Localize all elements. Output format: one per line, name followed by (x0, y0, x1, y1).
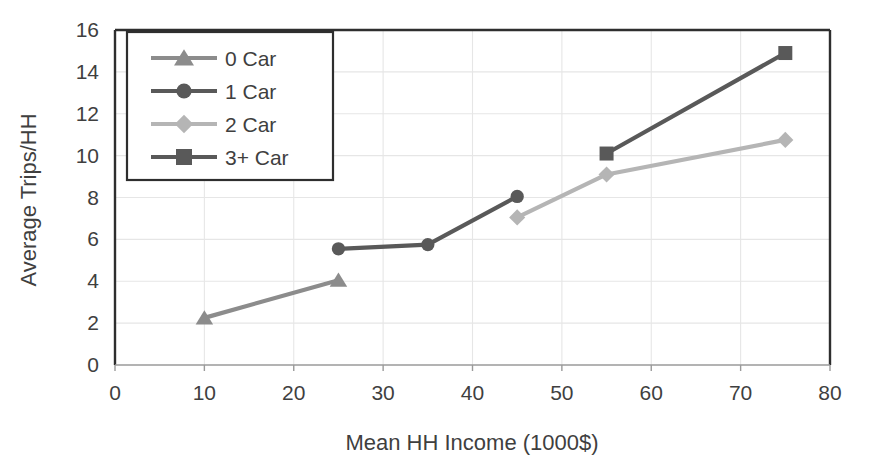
data-point-marker (330, 273, 348, 287)
series-1-car (332, 190, 524, 256)
legend-item-label: 1 Car (225, 80, 276, 103)
series-line (607, 53, 786, 154)
y-tick-label: 16 (76, 18, 99, 41)
y-tick-label: 6 (87, 227, 99, 250)
y-tick-label: 8 (87, 186, 99, 209)
data-point-marker (332, 242, 345, 255)
x-tick-label: 70 (729, 381, 752, 404)
data-point-marker (777, 132, 793, 148)
x-tick-labels: 01020304050607080 (109, 365, 842, 404)
x-tick-label: 80 (818, 381, 841, 404)
series-0-car (196, 273, 348, 325)
data-point-marker (600, 147, 614, 161)
y-tick-label: 14 (76, 60, 100, 83)
data-point-marker (421, 238, 434, 251)
chart-legend[interactable]: 0 Car1 Car2 Car3+ Car (127, 32, 333, 180)
y-tick-label: 12 (76, 102, 99, 125)
x-tick-label: 40 (461, 381, 484, 404)
data-point-marker (511, 190, 524, 203)
chart-svg: 0246810121416 01020304050607080 0 Car1 C… (0, 0, 882, 472)
series-line (204, 280, 338, 318)
x-tick-label: 30 (371, 381, 394, 404)
y-tick-label: 10 (76, 144, 99, 167)
legend-marker (176, 149, 192, 165)
y-axis-title: Average Trips/HH (16, 113, 41, 286)
x-tick-label: 10 (193, 381, 216, 404)
legend-item-label: 0 Car (225, 47, 276, 70)
data-point-marker (509, 209, 525, 225)
y-tick-label: 4 (87, 269, 99, 292)
legend-marker (176, 83, 191, 98)
chart-figure: 0246810121416 01020304050607080 0 Car1 C… (0, 0, 882, 472)
y-tick-labels: 0246810121416 (76, 18, 100, 376)
y-tick-label: 2 (87, 311, 99, 334)
x-tick-label: 0 (109, 381, 121, 404)
legend-item-label: 2 Car (225, 113, 276, 136)
x-tick-label: 60 (640, 381, 663, 404)
data-point-marker (599, 166, 615, 182)
legend-item-label: 3+ Car (225, 146, 289, 169)
y-tick-label: 0 (87, 353, 99, 376)
x-axis-title: Mean HH Income (1000$) (345, 430, 598, 455)
x-tick-label: 20 (282, 381, 305, 404)
x-tick-label: 50 (550, 381, 573, 404)
data-point-marker (778, 46, 792, 60)
